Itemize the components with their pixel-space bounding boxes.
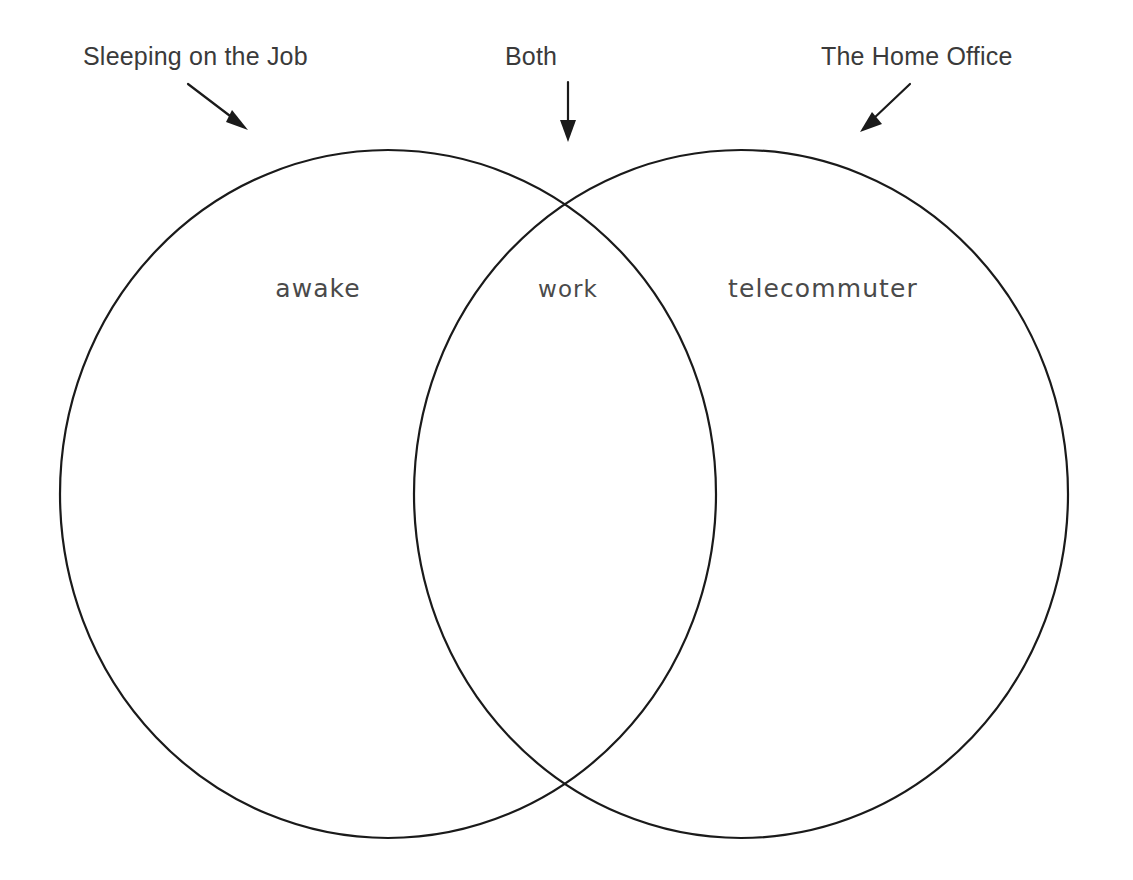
region-word-overlap: work [538, 278, 598, 301]
callout-label-right: The Home Office [821, 44, 1013, 69]
callout-label-left: Sleeping on the Job [83, 44, 308, 69]
left-set-circle [60, 150, 716, 838]
venn-diagram-canvas: Sleeping on the Job Both The Home Office… [0, 0, 1133, 880]
venn-diagram-graphics [0, 0, 1133, 880]
region-word-left-only: awake [275, 276, 361, 301]
right-callout-arrow-icon [860, 84, 910, 132]
left-callout-arrow-icon [188, 84, 248, 130]
middle-callout-arrow-icon [560, 82, 576, 142]
region-word-right-only: telecommuter [728, 276, 918, 301]
right-set-circle [414, 150, 1068, 838]
callout-label-middle: Both [505, 44, 557, 69]
